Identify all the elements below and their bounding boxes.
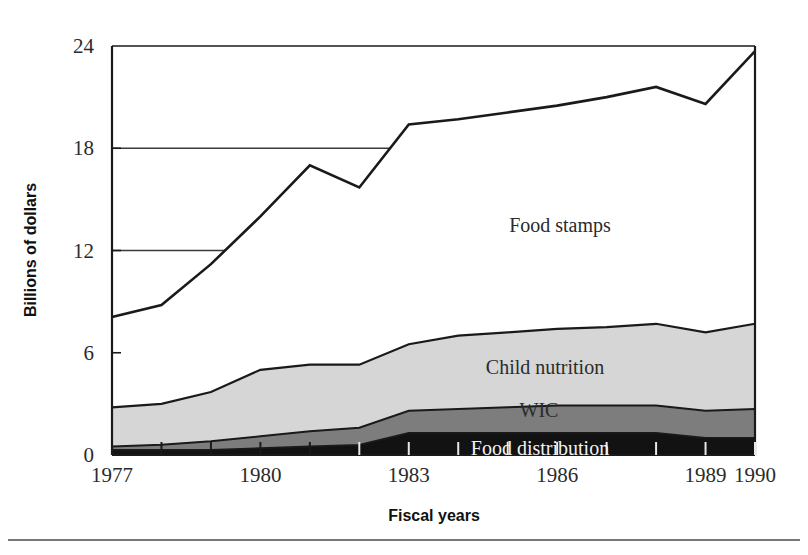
series-label-food-distribution: Food distribution [471, 437, 609, 459]
y-tick-label-24: 24 [73, 34, 95, 58]
series-label-child-nutrition: Child nutrition [486, 356, 604, 378]
x-tick-label-1983: 1983 [388, 463, 430, 487]
figure-container: 06121824 197719801983198619891990 Billio… [0, 0, 808, 555]
x-tick-label-1989: 1989 [685, 463, 727, 487]
x-tick-label-1986: 1986 [536, 463, 578, 487]
series-label-food-stamps: Food stamps [509, 214, 611, 237]
y-tick-label-6: 6 [84, 341, 95, 365]
stacked-area-chart: 06121824 197719801983198619891990 Billio… [0, 0, 808, 555]
x-tick-label-1977: 1977 [91, 463, 133, 487]
series-label-wic: WIC [520, 399, 559, 421]
x-tick-label-1980: 1980 [239, 463, 281, 487]
y-tick-label-18: 18 [73, 136, 94, 160]
x-axis-title: Fiscal years [388, 507, 480, 524]
y-tick-label-12: 12 [73, 239, 94, 263]
y-axis-title: Billions of dollars [22, 183, 39, 317]
x-tick-label-1990: 1990 [734, 463, 776, 487]
